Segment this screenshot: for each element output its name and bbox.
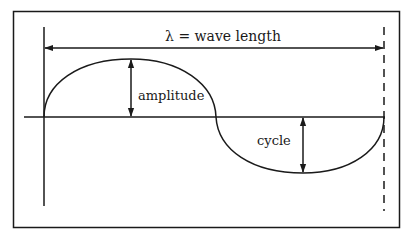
- wave-trough: [216, 117, 384, 173]
- cycle-label: cycle: [257, 133, 291, 148]
- wavelength-label: λ = wave length: [165, 28, 281, 44]
- wave-diagram: λ = wave length amplitude cycle: [0, 0, 407, 240]
- amplitude-label: amplitude: [138, 88, 205, 103]
